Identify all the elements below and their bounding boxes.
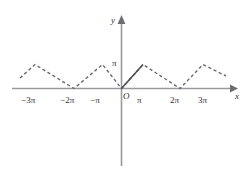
x-tick-label-neg-2pi: −2π — [60, 96, 74, 105]
y-axis-arrowhead — [118, 15, 126, 24]
x-tick-label-neg-3pi: −3π — [21, 96, 35, 105]
x-tick-label-neg-pi: −π — [90, 96, 100, 105]
math-figure: y x O π −3π −2π −π π 2π 3π — [0, 0, 247, 184]
y-tick-label-pi: π — [112, 59, 117, 68]
x-axis-label: x — [235, 92, 239, 101]
y-axis-label: y — [111, 16, 115, 25]
x-tick-label-2pi: 2π — [170, 96, 179, 105]
origin-label: O — [123, 92, 130, 101]
solid-principal-segment — [122, 65, 144, 89]
x-tick-label-pi: π — [137, 96, 142, 105]
x-tick-label-3pi: 3π — [198, 96, 207, 105]
dashed-triangular-wave — [20, 65, 226, 89]
